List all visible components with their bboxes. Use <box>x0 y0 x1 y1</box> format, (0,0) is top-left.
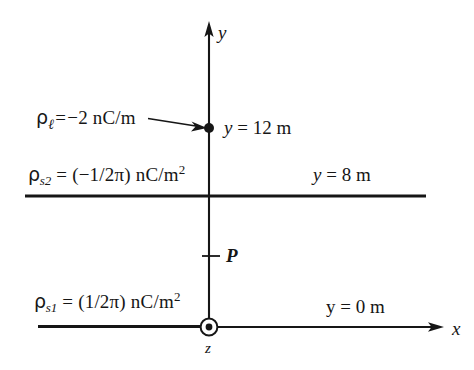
sheet-lower-exponent: 2 <box>174 289 181 304</box>
rho-symbol: ρ <box>28 163 40 185</box>
equals-sign: = <box>54 107 67 128</box>
equals-sign: = <box>56 164 67 185</box>
y-variable: y <box>313 164 321 185</box>
line-charge-density-label: ρℓ=−2 nC/m <box>36 108 136 131</box>
charge-configuration-figure: y x z P ρℓ=−2 nC/m y = 12 m ρs2 = (−1/2π… <box>0 0 474 370</box>
z-axis-label: z <box>205 341 211 356</box>
point-p-label: P <box>226 246 238 265</box>
surface-charge-density-upper-label: ρs2 = (−1/2π) nC/m2 <box>28 163 185 187</box>
z-axis-center-dot-icon <box>206 324 213 331</box>
equals-sign: = <box>326 164 337 185</box>
equals-sign: = <box>340 296 351 317</box>
y-axis-label: y <box>218 23 226 42</box>
line-charge-value: −2 nC/m <box>67 107 136 128</box>
y0-value: 0 m <box>356 296 385 317</box>
rho-subscript: s2 <box>40 173 52 188</box>
surface-charge-density-lower-label: ρs1 = (1/2π) nC/m2 <box>34 290 181 314</box>
y12-value: 12 m <box>253 117 292 138</box>
rho-symbol: ρ <box>36 106 48 128</box>
position-label-y0: y = 0 m <box>326 297 385 316</box>
position-label-y8: y = 8 m <box>313 165 371 184</box>
sheet-lower-value: (1/2π) nC/m <box>78 291 174 312</box>
rho-subscript: s1 <box>46 300 58 315</box>
line-charge-annotation-arrow-shaft <box>148 119 199 127</box>
sheet-upper-value: (−1/2π) nC/m <box>72 164 179 185</box>
y8-value: 8 m <box>342 164 371 185</box>
position-label-y12: y = 12 m <box>224 118 291 137</box>
sheet-upper-exponent: 2 <box>179 162 186 177</box>
y-variable: y <box>326 296 336 317</box>
y-variable: y <box>224 117 232 138</box>
x-axis-label: x <box>452 319 460 338</box>
equals-sign: = <box>237 117 248 138</box>
rho-symbol: ρ <box>34 290 46 312</box>
equals-sign: = <box>62 291 73 312</box>
